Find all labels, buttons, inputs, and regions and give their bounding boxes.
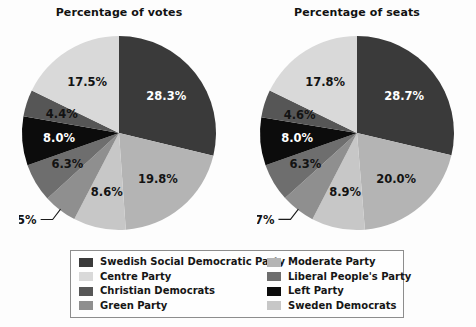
pie-slice-label: 19.8% — [138, 172, 178, 186]
legend-item-sweden-democrats: Sweden Democrats — [267, 299, 411, 313]
chart-legend: Swedish Social Democratic Party Centre P… — [70, 250, 404, 318]
pie-slice-label: 5.5% — [19, 213, 37, 227]
pie-slice-label: 28.7% — [384, 89, 424, 103]
pie-slice-label: 20.0% — [376, 172, 416, 186]
legend-item-social-democrats: Swedish Social Democratic Party — [79, 255, 267, 269]
seats-pie-svg: 28.7%20.0%8.9%5.7%6.3%8.0%4.6%17.8% — [257, 33, 457, 233]
seats-pie-chart: 28.7%20.0%8.9%5.7%6.3%8.0%4.6%17.8% — [257, 33, 457, 233]
pie-slice-label: 17.5% — [67, 75, 107, 89]
pie-slice-label: 5.7% — [257, 213, 275, 227]
pie-slice-label: 8.0% — [281, 131, 313, 145]
votes-chart-title: Percentage of votes — [0, 6, 238, 19]
pie-slice-label: 8.0% — [43, 131, 75, 145]
legend-item-christian-democrats: Christian Democrats — [79, 284, 267, 298]
pie-slice-label: 17.8% — [305, 75, 345, 89]
legend-item-centre-party: Centre Party — [79, 270, 267, 284]
legend-column-right: Moderate Party Liberal People's Party Le… — [267, 255, 411, 313]
legend-swatch-icon — [267, 258, 281, 267]
legend-item-moderate-party: Moderate Party — [267, 255, 411, 269]
pie-slice-label: 6.3% — [289, 157, 321, 171]
legend-column-left: Swedish Social Democratic Party Centre P… — [79, 255, 267, 313]
pie-label-leader-line — [278, 209, 298, 219]
pie-slice-label: 8.6% — [91, 185, 123, 199]
pie-label-leader-line — [41, 209, 61, 219]
legend-label: Centre Party — [100, 272, 171, 282]
legend-swatch-icon — [79, 258, 93, 267]
pie-slice-label: 28.3% — [146, 89, 186, 103]
pie-slice-label: 4.4% — [46, 107, 78, 121]
votes-pie-chart: 28.3%19.8%8.6%5.5%6.3%8.0%4.4%17.5% — [19, 33, 219, 233]
votes-chart-panel: Percentage of votes 28.3%19.8%8.6%5.5%6.… — [0, 0, 238, 250]
legend-swatch-icon — [79, 272, 93, 281]
legend-swatch-icon — [267, 301, 281, 310]
legend-swatch-icon — [267, 287, 281, 296]
legend-item-green-party: Green Party — [79, 299, 267, 313]
seats-pie-leaders — [278, 209, 298, 219]
legend-item-left-party: Left Party — [267, 284, 411, 298]
votes-pie-svg: 28.3%19.8%8.6%5.5%6.3%8.0%4.4%17.5% — [19, 33, 219, 233]
legend-item-liberal-peoples-party: Liberal People's Party — [267, 270, 411, 284]
legend-label: Liberal People's Party — [288, 272, 411, 282]
pie-slice-label: 6.3% — [51, 157, 83, 171]
pie-slice-label: 4.6% — [284, 108, 316, 122]
votes-pie-leaders — [41, 209, 61, 219]
legend-swatch-icon — [267, 272, 281, 281]
pie-slice-label: 8.9% — [329, 185, 361, 199]
legend-label: Swedish Social Democratic Party — [100, 257, 285, 267]
legend-label: Left Party — [288, 286, 344, 296]
legend-label: Christian Democrats — [100, 286, 215, 296]
seats-chart-panel: Percentage of seats 28.7%20.0%8.9%5.7%6.… — [238, 0, 476, 250]
seats-chart-title: Percentage of seats — [238, 6, 476, 19]
legend-label: Sweden Democrats — [288, 301, 396, 311]
legend-label: Green Party — [100, 301, 167, 311]
legend-swatch-icon — [79, 287, 93, 296]
legend-swatch-icon — [79, 301, 93, 310]
legend-label: Moderate Party — [288, 257, 376, 267]
